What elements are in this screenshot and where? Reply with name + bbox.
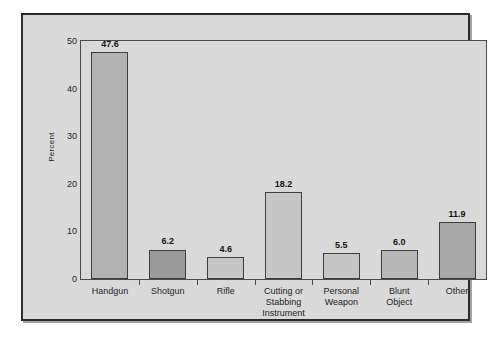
- x-tick-mark: [197, 280, 198, 285]
- bar-value-label: 4.6: [219, 244, 232, 254]
- y-tick-label: 40: [55, 84, 77, 94]
- x-tick-mark: [370, 280, 371, 285]
- y-tick-label: 10: [55, 226, 77, 236]
- x-category-label: Personal Weapon: [324, 286, 360, 308]
- x-axis-category-labels: HandgunShotgunRifleCutting or Stabbing I…: [80, 286, 487, 332]
- y-tick-label: 30: [55, 131, 77, 141]
- y-tick-label: 50: [55, 36, 77, 46]
- x-category-label: Shotgun: [151, 286, 185, 297]
- x-category-label: Handgun: [92, 286, 129, 297]
- x-category-label: Blunt Object: [386, 286, 412, 308]
- bar-value-label: 5.5: [335, 240, 348, 250]
- x-tick-mark: [139, 280, 140, 285]
- bar-value-label: 47.6: [101, 39, 119, 49]
- chart-panel-frame: Percent 01020304050 47.66.24.618.25.56.0…: [21, 13, 470, 321]
- x-tick-mark: [312, 280, 313, 285]
- bar-value-labels: 47.66.24.618.25.56.011.9: [81, 41, 486, 279]
- bar-value-label: 6.0: [393, 237, 406, 247]
- figure-root: Percent 01020304050 47.66.24.618.25.56.0…: [0, 0, 493, 341]
- x-category-label: Other: [446, 286, 469, 297]
- x-tick-mark: [428, 280, 429, 285]
- y-tick-label: 20: [55, 179, 77, 189]
- bar-value-label: 11.9: [449, 209, 466, 219]
- x-category-label: Cutting or Stabbing Instrument: [262, 286, 305, 319]
- bar-value-label: 18.2: [275, 179, 293, 189]
- x-tick-mark: [255, 280, 256, 285]
- x-category-label: Rifle: [217, 286, 235, 297]
- y-tick-label: 0: [55, 274, 77, 284]
- y-axis-tick-labels: 01020304050: [53, 15, 77, 341]
- bar-value-label: 6.2: [162, 236, 175, 246]
